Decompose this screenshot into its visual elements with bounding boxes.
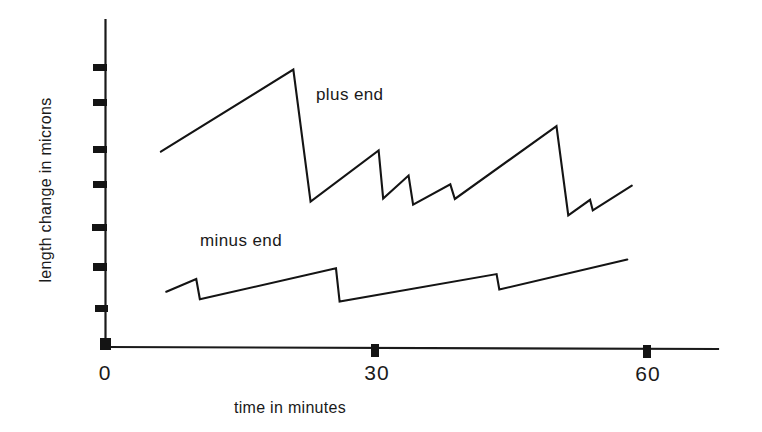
y-tick-2 <box>93 263 107 271</box>
x-axis-line <box>105 347 718 349</box>
y-tick-1 <box>95 305 108 312</box>
annotation-plus-end: plus end <box>316 85 383 104</box>
y-tick-origin <box>100 338 111 350</box>
y-tick-7 <box>93 64 107 71</box>
chart-figure: 0 30 60 time in minutes length change in… <box>0 0 762 432</box>
x-tick-label-0: 0 <box>99 361 112 384</box>
chart-plot-area: 0 30 60 time in minutes length change in… <box>0 0 762 432</box>
x-tick-label-60: 60 <box>635 362 660 385</box>
y-tick-4 <box>93 181 107 188</box>
series-line-plus-end <box>161 69 632 215</box>
x-tick-label-30: 30 <box>364 361 389 384</box>
y-axis-title: length change in microns <box>37 97 54 282</box>
x-tick-30 <box>371 344 379 357</box>
annotation-minus-end: minus end <box>200 231 282 250</box>
series-line-minus-end <box>166 260 627 302</box>
y-axis-ticks <box>92 64 111 350</box>
y-tick-6 <box>93 99 107 106</box>
y-tick-3 <box>92 224 107 231</box>
x-axis-title: time in minutes <box>234 399 346 416</box>
x-axis-ticks <box>371 344 651 358</box>
x-tick-60 <box>643 345 651 358</box>
y-tick-5 <box>93 146 107 153</box>
